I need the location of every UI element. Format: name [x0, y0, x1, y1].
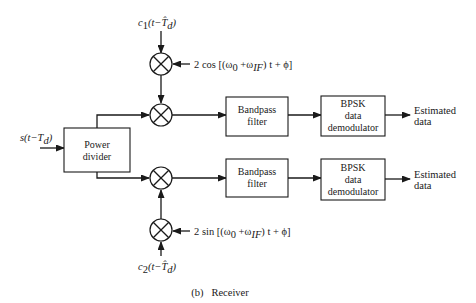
svg-text:data: data [345, 110, 362, 121]
svg-text:demodulator: demodulator [328, 122, 379, 133]
top-output-label-1: Estimated [414, 105, 457, 116]
bottom-output-label-2: data [414, 180, 432, 191]
bandpass-filter-top: Bandpass filter [226, 97, 288, 136]
svg-text:data: data [345, 174, 362, 185]
code1-label: c1(t−T̂d) [138, 16, 177, 31]
svg-text:filter: filter [247, 116, 267, 127]
svg-text:Bandpass: Bandpass [238, 104, 276, 115]
svg-text:BPSK: BPSK [340, 98, 366, 109]
svg-text:Bandpass: Bandpass [238, 166, 276, 177]
svg-text:BPSK: BPSK [340, 162, 366, 173]
received-signal-label: s(t−Td) [20, 132, 53, 146]
mixer-top-despread [150, 53, 172, 75]
top-output-label-2: data [414, 116, 432, 127]
svg-text:Power: Power [84, 139, 110, 150]
bottom-output-label-1: Estimated [414, 169, 457, 180]
receiver-block-diagram: c1(t−T̂d) 2 cos [(ω0 +ωIF) t + ϕ] s(t−Td… [0, 0, 476, 303]
divider-to-top-mixer [97, 115, 149, 128]
mixer-bottom-downconvert [150, 167, 172, 189]
figure-caption: (b) Receiver [191, 287, 249, 299]
cos-reference-label: 2 cos [(ω0 +ωIF) t + ϕ] [194, 59, 292, 73]
svg-text:demodulator: demodulator [328, 186, 379, 197]
code2-label: c2(t−T̂d) [138, 260, 177, 275]
mixer-top-downconvert [150, 104, 172, 126]
divider-to-bottom-mixer [97, 172, 149, 178]
bpsk-demodulator-bottom: BPSK data demodulator [321, 159, 385, 200]
svg-text:divider: divider [83, 151, 112, 162]
sin-reference-label: 2 sin [(ω0 +ωIF) t + ϕ] [194, 226, 291, 240]
svg-text:filter: filter [247, 178, 267, 189]
bpsk-demodulator-top: BPSK data demodulator [321, 96, 385, 136]
power-divider-block: Power divider [64, 128, 130, 172]
bandpass-filter-bottom: Bandpass filter [226, 159, 288, 197]
mixer-bottom-despread [150, 219, 172, 241]
